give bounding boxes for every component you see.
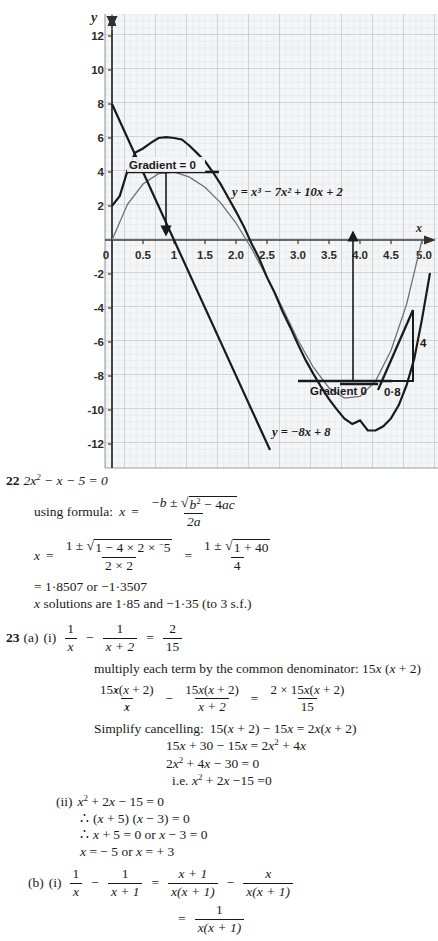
svg-text:12: 12 (91, 30, 104, 42)
svg-text:3.0: 3.0 (290, 249, 306, 261)
q22-statement: 2x2 − x − 5 = 0 (24, 473, 108, 489)
gradient-zero-bottom-label: Gradient 0 (310, 385, 367, 397)
q23-a-roman-ii: (ii) (56, 795, 78, 810)
svg-text:4: 4 (98, 166, 105, 178)
line-equation-label: y = −8x + 8 (270, 425, 331, 439)
simplify-row-3: 2x2 + 4x − 30 = 0 (6, 756, 432, 772)
b-frac-1-over-xxplus1: 1 x(x + 1) (195, 903, 245, 936)
using-formula-label: using formula: (34, 505, 113, 520)
x-axis-label: x (415, 221, 422, 235)
simplify-line-1: 15(x + 2) − 15x = 2x(x + 2) (210, 721, 357, 737)
q23-aii-row-2: ∴ (x + 5) (x − 3) = 0 (6, 812, 432, 827)
b-minus-1: − (91, 876, 99, 891)
equals-1: = (146, 631, 154, 646)
svg-text:6: 6 (98, 132, 104, 144)
solution-body: 22 2x2 − x − 5 = 0 using formula: x = −b… (0, 470, 438, 936)
svg-text:2.0: 2.0 (228, 249, 244, 261)
svg-text:2.5: 2.5 (259, 249, 276, 261)
expanded-equation-row: 15x(x + 2) x − 15x(x + 2) x + 2 = 2 × 15… (6, 683, 432, 715)
svg-text:0: 0 (103, 249, 109, 261)
triangle-rise-label: 4 (420, 337, 427, 349)
q22-number: 22 (6, 473, 24, 489)
simplify-row-4: i.e. x2 + 2x −15 =0 (6, 773, 432, 789)
simplify-label: Simplify cancelling: (94, 721, 210, 737)
simplified-fraction: 1 ± √1 + 40 4 (201, 538, 273, 574)
curve-equation-label: y = x³ − 7x² + 10x + 2 (230, 185, 343, 199)
minus-1: − (86, 631, 94, 646)
svg-text:-2: -2 (94, 268, 104, 280)
plot-grid (105, 14, 438, 468)
simplify-line-2: 15x + 30 − 15x = 2x2 + 4x (166, 738, 306, 754)
simplify-line-3: 2x2 + 4x − 30 = 0 (166, 756, 259, 772)
svg-text:2: 2 (98, 200, 104, 212)
q22-solutions: x solutions are 1·85 and −1·35 (to 3 s.f… (34, 596, 252, 612)
frac-1-over-xplus2: 1 x + 2 (103, 622, 138, 655)
aii-line-3: x + 5 = 0 or x − 3 = 0 (93, 828, 207, 843)
b-equals-2: = (178, 912, 186, 927)
svg-text:-12: -12 (87, 438, 104, 450)
question-23-block: 23 (a) (i) 1 x − 1 x + 2 = 2 15 multiply… (6, 622, 432, 936)
q23-ai-row: 23 (a) (i) 1 x − 1 x + 2 = 2 15 (6, 622, 432, 655)
q23-number: 23 (6, 631, 24, 646)
b-frac-xplus1-over-xxplus1: x + 1 x(x + 1) (168, 867, 218, 900)
triangle-run-label: 0·8 (384, 386, 401, 398)
svg-text:0.5: 0.5 (135, 249, 152, 261)
frac-15x-over-x-cancel: 15x(x + 2) x (97, 683, 157, 715)
svg-text:1.5: 1.5 (197, 249, 214, 261)
svg-text:-8: -8 (94, 370, 105, 382)
graph-svg: 12 10 8 6 4 2 -2 -4 -6 -8 -10 -12 0 0.5 … (0, 0, 438, 470)
b-frac-x-over-xxplus1: x x(x + 1) (243, 867, 293, 900)
svg-text:8: 8 (98, 98, 105, 110)
svg-text:1: 1 (171, 249, 178, 261)
b-frac-1-over-x: 1 x (70, 867, 83, 900)
gradient-zero-top-label: Gradient = 0 (129, 159, 196, 171)
aii-line-2: (x + 5) (x − 3) = 0 (93, 812, 190, 827)
frac-2x15x-over-15: 2 × 15x(x + 2) 15 (267, 683, 347, 715)
x-equals: x (119, 505, 125, 520)
multiply-note-row: multiply each term by the common denomin… (6, 661, 432, 677)
svg-text:3.5: 3.5 (321, 249, 338, 261)
svg-text:-10: -10 (87, 404, 104, 416)
graph-figure: 12 10 8 6 4 2 -2 -4 -6 -8 -10 -12 0 0.5 … (0, 0, 438, 470)
therefore-1: ∴ (80, 812, 93, 827)
q23-aii-row-3: ∴ x + 5 = 0 or x − 3 = 0 (6, 828, 432, 843)
q22-result: = 1·8507 or −1·3507 (34, 579, 147, 595)
simplify-line-4: i.e. x2 + 2x −15 =0 (172, 773, 272, 789)
svg-text:10: 10 (91, 64, 104, 76)
q23-aii-row-1: (ii) x2 + 2x − 15 = 0 (6, 795, 432, 810)
y-axis-label: y (89, 10, 98, 25)
q23-part-a: (a) (24, 631, 44, 646)
aii-line-4: x = − 5 or x = + 3 (80, 845, 174, 860)
q22-formula-row: using formula: x = −b ± √b2 − 4ac 2a (6, 495, 432, 531)
b-minus-2: − (227, 876, 235, 891)
q23-aii-row-4: x = − 5 or x = + 3 (6, 845, 432, 860)
svg-text:-6: -6 (94, 336, 104, 348)
q22-statement-row: 22 2x2 − x − 5 = 0 (6, 473, 432, 489)
y-tick-labels: 12 10 8 6 4 2 -2 -4 -6 -8 -10 -12 (87, 30, 104, 450)
q23-bi-result-row: = 1 x(x + 1) (6, 903, 432, 936)
simplify-row-2: 15x + 30 − 15x = 2x2 + 4x (6, 738, 432, 754)
multiply-note: multiply each term by the common denomin… (94, 661, 421, 677)
q22-solutions-row: x solutions are 1·85 and −1·35 (to 3 s.f… (6, 596, 432, 612)
svg-text:4.5: 4.5 (383, 249, 400, 261)
q23-bi-row: (b) (i) 1 x − 1 x + 1 = x + 1 x(x + 1) −… (6, 867, 432, 900)
therefore-2: ∴ (80, 828, 93, 843)
q23-part-b: (b) (28, 876, 49, 891)
svg-text:4.0: 4.0 (352, 249, 368, 261)
frac-1-over-x: 1 x (64, 622, 77, 655)
q22-substitution-row: x= 1 ± √1 − 4 × 2 × −5 2 × 2 = 1 ± √1 + … (6, 538, 432, 574)
quadratic-formula: −b ± √b2 − 4ac 2a (148, 495, 240, 531)
b-equals-1: = (151, 876, 159, 891)
svg-text:-4: -4 (94, 302, 105, 314)
simplify-row-1: Simplify cancelling: 15(x + 2) − 15x = 2… (6, 721, 432, 737)
q23-a-roman-i: (i) (43, 631, 61, 646)
question-22-block: 22 2x2 − x − 5 = 0 using formula: x = −b… (6, 473, 432, 612)
substituted-fraction: 1 ± √1 − 4 × 2 × −5 2 × 2 (63, 538, 176, 574)
frac-2-over-15: 2 15 (163, 622, 183, 655)
b-frac-1-over-xplus1: 1 x + 1 (108, 867, 143, 900)
frac-15x-over-xplus2: 15x(x + 2) x + 2 (182, 683, 242, 715)
q22-result-row: = 1·8507 or −1·3507 (6, 579, 432, 595)
aii-line-1: x2 + 2x − 15 = 0 (78, 795, 165, 810)
q23-b-roman-i: (i) (49, 876, 67, 891)
